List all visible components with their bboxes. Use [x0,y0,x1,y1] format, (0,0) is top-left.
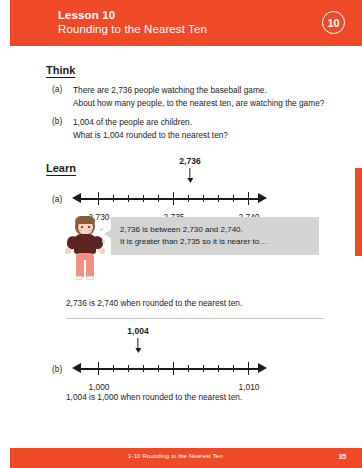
arrow-right-icon [258,193,267,203]
footer-lesson-text: 1-10 Rounding to the Nearest Ten [128,453,223,459]
numberline-b-marker: 1,004 [127,326,148,348]
tick-major [248,362,249,375]
tick-major [173,362,174,375]
tick-minor [158,365,159,372]
think-item-b-line2: What is 1,004 rounded to the nearest ten… [73,129,343,142]
speech-bubble: 2,736 is between 2,730 and 2,740. It is … [111,217,319,255]
tick-minor [158,195,159,202]
cheek-icon [79,229,82,231]
shoe-icon [86,276,94,280]
numberline-a-label: (a) [52,194,62,204]
speech-bubble-line2: It is greater than 2,735 so it is nearer… [120,236,310,248]
page-footer-band: 1-10 Rounding to the Nearest Ten 35 [10,448,362,468]
numberline-a-marker: 2,736 [179,156,200,178]
tick-minor [128,365,129,372]
student-character-illustration [62,214,108,286]
lesson-number-badge: 10 [322,11,345,34]
tick-major [248,192,249,205]
think-item-b-line1: 1,004 of the people are children. [73,116,343,129]
tick-minor [233,195,234,202]
think-item-a-label: (a) [52,84,62,94]
cheek-icon [89,229,92,231]
think-item-b-text: 1,004 of the people are children. What i… [73,116,343,141]
conclusion-a: 2,736 is 2,740 when rounded to the neare… [66,298,242,308]
numberline-b-label: (b) [52,364,62,374]
hand-icon [65,248,71,254]
numberline-a-marker-value: 2,736 [179,156,200,166]
leg-gap [84,260,86,277]
lesson-header-text: Lesson 10 Rounding to the Nearest Ten [58,9,207,36]
section-divider [66,318,324,319]
tick-minor [218,365,219,372]
tick-major [173,192,174,205]
think-item-a-text: There are 2,736 people watching the base… [73,84,343,109]
torso-icon [74,234,96,254]
down-arrow-icon [189,168,190,178]
eye-icon [81,226,83,228]
tick-minor [233,365,234,372]
arrow-right-icon [258,363,267,373]
think-item-b-label: (b) [52,116,62,126]
lesson-label: Lesson 10 [58,9,207,22]
tick-major [98,192,99,205]
tick-minor [188,195,189,202]
tick-minor [113,195,114,202]
tick-minor [113,365,114,372]
shoe-icon [75,276,83,280]
conclusion-b: 1,004 is 1,000 when rounded to the neare… [66,392,242,402]
numberline-a-axis [72,190,267,208]
footer-page-number: 35 [339,453,346,460]
tick-minor [143,195,144,202]
sparkle-icon [102,240,105,243]
numberline-b-tick-label: 1,000 [89,382,110,392]
down-arrow-icon [137,338,138,348]
think-item-a-line1: There are 2,736 people watching the base… [73,84,343,97]
lesson-title: Rounding to the Nearest Ten [58,22,207,36]
numberline-b-tick-label: 1,010 [239,382,260,392]
tick-minor [203,365,204,372]
tick-minor [218,195,219,202]
tick-minor [143,365,144,372]
sparkle-icon [100,228,103,231]
tick-minor [203,195,204,202]
numberline-b-axis [72,360,267,378]
hand-icon [99,248,105,254]
hair-fringe-icon [75,216,95,224]
worksheet-page: Lesson 10 Rounding to the Nearest Ten 10… [0,0,362,468]
speech-bubble-line1: 2,736 is between 2,730 and 2,740. [120,224,310,236]
numberline-b: (b) 1,004 1,000 1 [0,334,362,400]
numberline-b-marker-value: 1,004 [127,326,148,336]
tick-minor [128,195,129,202]
tick-major [98,362,99,375]
tick-minor [188,365,189,372]
think-heading: Think [46,64,75,76]
lesson-header-band: Lesson 10 Rounding to the Nearest Ten 10 [10,0,362,46]
character-speech-row: 2,736 is between 2,730 and 2,740. It is … [0,214,362,286]
think-item-a-line2: About how many people, to the nearest te… [73,97,343,110]
eye-icon [88,226,90,228]
